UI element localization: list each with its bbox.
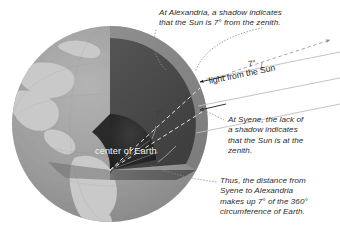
center-point xyxy=(109,169,111,171)
eratosthenes-diagram: At Alexandria, a shadow indicates that t… xyxy=(0,0,340,249)
label-center-of-earth: center of Earth xyxy=(95,146,157,156)
label-angle-at-center: 7° xyxy=(155,109,163,119)
annotation-syene: At Syene, the lack of a shadow indicates… xyxy=(228,115,336,157)
annotation-conclusion: Thus, the distance from Syene to Alexand… xyxy=(220,176,338,218)
annotation-alexandria: At Alexandria, a shadow indicates that t… xyxy=(159,8,337,29)
label-angle-at-alexandria: 7° xyxy=(247,58,257,69)
